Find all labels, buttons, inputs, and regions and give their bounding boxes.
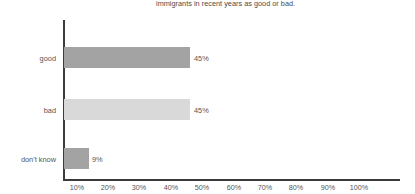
x-tick-70: 70% <box>250 183 280 192</box>
x-tick-50: 50% <box>187 183 217 192</box>
x-tick-10: 10% <box>62 183 92 192</box>
category-label-dont-know: don't know <box>0 155 56 164</box>
x-tick-40: 40% <box>156 183 186 192</box>
x-axis-line <box>63 179 400 181</box>
plot-area: good 45% bad 45% don't know 9% 10% 20% 3… <box>0 0 415 194</box>
bar-good[interactable] <box>64 47 190 68</box>
bar-bad[interactable] <box>64 99 190 120</box>
x-tick-60: 60% <box>219 183 249 192</box>
x-tick-80: 80% <box>281 183 311 192</box>
x-tick-90: 90% <box>313 183 343 192</box>
category-label-bad: bad <box>0 106 56 115</box>
bar-value-dont-know: 9% <box>92 155 103 164</box>
bar-value-bad: 45% <box>194 106 209 115</box>
x-tick-20: 20% <box>93 183 123 192</box>
bar-chart: immigrants in recent years as good or ba… <box>0 0 415 194</box>
x-tick-100: 100% <box>344 183 374 192</box>
x-tick-30: 30% <box>124 183 154 192</box>
bar-dont-know[interactable] <box>64 148 89 169</box>
category-label-good: good <box>0 54 56 63</box>
bar-value-good: 45% <box>194 54 209 63</box>
